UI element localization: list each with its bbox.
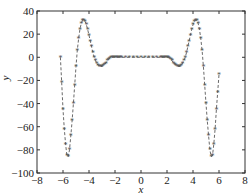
x-axis-ticks: −8−6−4−202468 (31, 11, 248, 186)
asterisk-marker-icon: * (75, 47, 79, 56)
asterisk-marker-icon: * (68, 146, 72, 155)
x-tick-label: −6 (57, 174, 69, 186)
asterisk-marker-icon: * (212, 141, 216, 150)
x-tick-label: 6 (216, 174, 222, 186)
y-tick-label: −60 (17, 121, 35, 133)
asterisk-marker-icon: * (204, 100, 208, 109)
chart: ****************************************… (0, 0, 251, 196)
asterisk-marker-icon: * (214, 106, 218, 115)
asterisk-marker-icon: * (217, 71, 221, 80)
asterisk-marker-icon: * (211, 152, 215, 161)
asterisk-marker-icon: * (198, 26, 202, 35)
asterisk-marker-icon: * (77, 35, 81, 44)
asterisk-marker-icon: * (73, 82, 77, 91)
asterisk-marker-icon: * (200, 47, 204, 56)
asterisk-marker-icon: * (201, 63, 205, 72)
asterisk-marker-icon: * (216, 89, 220, 98)
asterisk-marker-icon: * (71, 100, 75, 109)
asterisk-marker-icon: * (74, 63, 78, 72)
y-tick-label: −40 (17, 98, 35, 110)
asterisk-marker-icon: * (58, 54, 62, 63)
x-tick-label: −2 (109, 174, 121, 186)
y-axis-label: y (0, 75, 11, 81)
y-tick-label: −20 (17, 74, 35, 86)
x-tick-label: −4 (83, 174, 95, 186)
series-line (60, 20, 219, 157)
asterisk-marker-icon: * (199, 35, 203, 44)
asterisk-marker-icon: * (203, 82, 207, 91)
asterisk-marker-icon: * (62, 126, 66, 135)
x-axis-label: x (138, 183, 144, 195)
x-tick-label: 4 (190, 174, 196, 186)
asterisk-marker-icon: * (207, 132, 211, 141)
asterisk-marker-icon: * (205, 117, 209, 126)
y-tick-label: −100 (11, 167, 34, 179)
plot-area: ****************************************… (58, 0, 223, 162)
asterisk-marker-icon: * (69, 132, 73, 141)
x-tick-label: 2 (164, 174, 170, 186)
y-tick-label: −80 (17, 144, 35, 156)
y-tick-label: 20 (23, 28, 35, 40)
asterisk-marker-icon: * (61, 106, 65, 115)
asterisk-marker-icon: * (213, 126, 217, 135)
y-tick-label: 40 (23, 5, 35, 17)
asterisk-marker-icon: * (70, 117, 74, 126)
asterisk-marker-icon: * (60, 79, 64, 88)
asterisk-marker-icon: * (220, 0, 224, 2)
y-tick-label: 0 (29, 51, 35, 63)
x-tick-label: 8 (242, 174, 248, 186)
